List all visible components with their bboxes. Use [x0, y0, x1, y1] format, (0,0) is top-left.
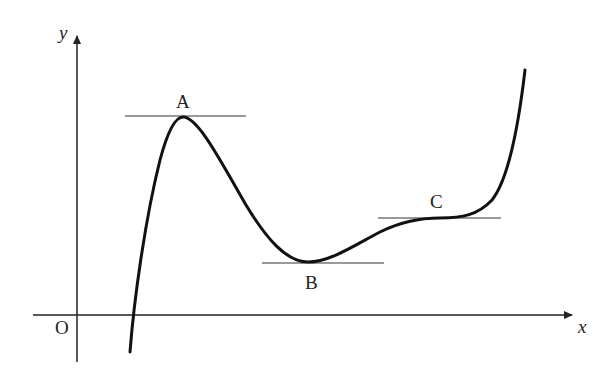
point-label-C: C	[430, 191, 443, 212]
point-label-B: B	[305, 272, 318, 293]
origin-label: O	[55, 317, 69, 338]
x-axis-label: x	[577, 316, 587, 337]
y-axis-label: y	[57, 22, 68, 43]
function-graph: x y O A B C	[0, 0, 593, 370]
point-label-A: A	[176, 91, 190, 112]
function-curve	[130, 70, 525, 352]
